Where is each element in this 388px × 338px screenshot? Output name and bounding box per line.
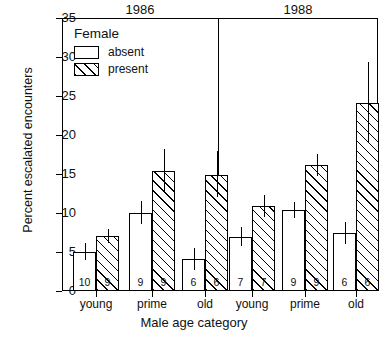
bar-sample-size: 9 bbox=[130, 277, 151, 288]
chart-root: Percent escalated encounters 05101520253… bbox=[0, 0, 388, 338]
panel-title-1986: 1986 bbox=[80, 2, 200, 17]
bar-sample-size: 6 bbox=[334, 277, 355, 288]
error-bar-cap bbox=[209, 175, 224, 176]
legend-swatch-absent-icon bbox=[74, 46, 99, 59]
bar-1986-prime-absent: 9 bbox=[129, 213, 152, 291]
error-bar-cap bbox=[233, 237, 248, 238]
error-bar-cap bbox=[186, 259, 201, 260]
x-axis-title: Male age category bbox=[0, 315, 388, 330]
bar-1988-prime-present: 9 bbox=[305, 165, 328, 291]
bar-sample-size: 6 bbox=[357, 277, 378, 288]
legend-label-present: present bbox=[108, 62, 148, 76]
bar-sample-size: 7 bbox=[230, 277, 251, 288]
bar-sample-size: 9 bbox=[306, 277, 327, 288]
error-bar-cap bbox=[286, 210, 301, 211]
bar-1988-young-present: 7 bbox=[252, 206, 275, 291]
bar-sample-size: 10 bbox=[74, 277, 95, 288]
error-bar-cap bbox=[337, 233, 352, 234]
bar-sample-size: 6 bbox=[183, 277, 204, 288]
legend-entry-absent: absent bbox=[74, 45, 148, 59]
legend: Female absent present bbox=[74, 26, 148, 79]
error-bar-cap bbox=[133, 213, 148, 214]
bar-sample-size: 9 bbox=[283, 277, 304, 288]
bar-1988-prime-absent: 9 bbox=[282, 210, 305, 291]
legend-entry-present: present bbox=[74, 62, 148, 76]
error-bar-cap bbox=[77, 252, 92, 253]
bar-sample-size: 7 bbox=[253, 277, 274, 288]
x-tick-label: old bbox=[321, 297, 388, 311]
bar-sample-size: 6 bbox=[206, 277, 227, 288]
y-tick-mark bbox=[56, 291, 62, 292]
error-bar-cap bbox=[256, 206, 271, 207]
error-bar-cap bbox=[309, 165, 324, 166]
bar-1986-young-present: 9 bbox=[96, 236, 119, 291]
bar-sample-size: 9 bbox=[153, 277, 174, 288]
error-bar-cap bbox=[100, 236, 115, 237]
legend-title: Female bbox=[74, 26, 148, 41]
error-bar-cap bbox=[156, 171, 171, 172]
legend-label-absent: absent bbox=[108, 45, 144, 59]
y-axis-title: Percent escalated encounters bbox=[21, 30, 35, 270]
legend-swatch-present-icon bbox=[74, 63, 99, 76]
bar-sample-size: 9 bbox=[97, 277, 118, 288]
error-bar-cap bbox=[360, 103, 375, 104]
panel-title-1988: 1988 bbox=[238, 2, 358, 17]
